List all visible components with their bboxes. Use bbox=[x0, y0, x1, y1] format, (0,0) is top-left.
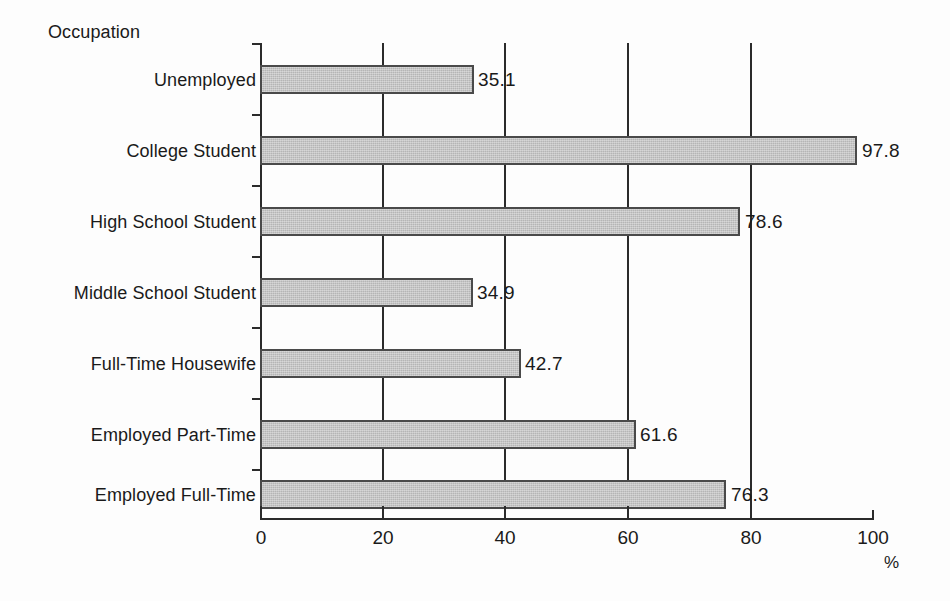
bar[interactable] bbox=[260, 207, 740, 236]
bar-value-label: 78.6 bbox=[745, 211, 783, 233]
y-axis-tick-1 bbox=[252, 114, 261, 116]
y-axis-title: Occupation bbox=[48, 22, 140, 43]
bar[interactable] bbox=[260, 136, 857, 165]
x-axis-unit-label: % bbox=[884, 553, 899, 573]
y-axis-tick-3 bbox=[252, 256, 261, 258]
x-axis-tick-label: 60 bbox=[617, 527, 638, 549]
bar[interactable] bbox=[260, 278, 473, 307]
category-label: Middle School Student bbox=[74, 282, 256, 303]
x-axis-tick-label: 80 bbox=[740, 527, 761, 549]
category-label: Unemployed bbox=[154, 69, 256, 90]
y-axis-tick-5 bbox=[252, 398, 261, 400]
category-label: College Student bbox=[126, 140, 256, 161]
x-axis-tick-label: 0 bbox=[256, 527, 267, 549]
bar[interactable] bbox=[260, 480, 726, 509]
bar-row: Full-Time Housewife 42.7 bbox=[0, 349, 950, 378]
x-axis-tick-label: 40 bbox=[494, 527, 515, 549]
x-axis-end-cap bbox=[872, 510, 874, 519]
x-axis-tick-60 bbox=[627, 506, 629, 518]
x-axis-tick-80 bbox=[750, 506, 752, 518]
bar-value-label: 76.3 bbox=[731, 484, 769, 506]
bar-value-label: 35.1 bbox=[478, 69, 516, 91]
y-axis-tick-4 bbox=[252, 327, 261, 329]
bar-row: High School Student 78.6 bbox=[0, 207, 950, 236]
bar[interactable] bbox=[260, 65, 474, 94]
x-axis-tick-label: 100 bbox=[857, 527, 889, 549]
x-axis-tick-0 bbox=[260, 506, 262, 518]
bar-value-label: 42.7 bbox=[525, 353, 563, 375]
category-label: High School Student bbox=[90, 211, 256, 232]
bar-value-label: 97.8 bbox=[862, 140, 900, 162]
bar[interactable] bbox=[260, 420, 636, 449]
bar[interactable] bbox=[260, 349, 521, 378]
y-axis-tick-2 bbox=[252, 185, 261, 187]
category-label: Full-Time Housewife bbox=[91, 353, 256, 374]
x-axis-line bbox=[260, 518, 874, 520]
bar-value-label: 34.9 bbox=[477, 282, 515, 304]
bar-value-label: 61.6 bbox=[640, 424, 678, 446]
y-axis-tick-6 bbox=[252, 469, 261, 471]
x-axis-tick-40 bbox=[504, 506, 506, 518]
bar-row: Employed Part-Time 61.6 bbox=[0, 420, 950, 449]
bar-row: Unemployed 35.1 bbox=[0, 65, 950, 94]
category-label: Employed Part-Time bbox=[91, 424, 256, 445]
x-axis-tick-label: 20 bbox=[372, 527, 393, 549]
bar-row: College Student 97.8 bbox=[0, 136, 950, 165]
bar-row: Middle School Student 34.9 bbox=[0, 278, 950, 307]
x-axis-tick-20 bbox=[382, 506, 384, 518]
bar-row: Employed Full-Time 76.3 bbox=[0, 480, 950, 509]
category-label: Employed Full-Time bbox=[95, 484, 256, 505]
y-axis-tick-top bbox=[252, 43, 261, 45]
bar-chart: Occupation Unemployed 35.1 College Stude… bbox=[0, 0, 950, 601]
